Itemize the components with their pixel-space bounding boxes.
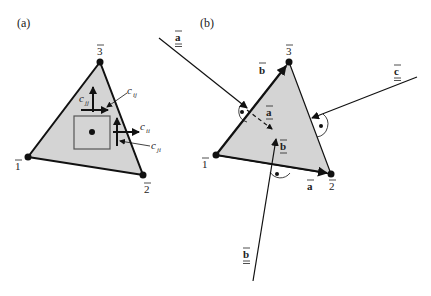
svg-text:a: a	[307, 180, 313, 192]
panel-a-label: (a)	[17, 16, 30, 30]
svg-text:b: b	[259, 64, 265, 76]
vertex-dot-3	[286, 59, 293, 66]
vertex-label-1: 1	[15, 160, 22, 172]
svg-text:1: 1	[15, 160, 21, 172]
vertex-dot-3	[97, 59, 104, 66]
svg-text:c: c	[79, 92, 84, 104]
outer-label-c: c	[394, 65, 401, 81]
svg-text:ji: ji	[156, 146, 161, 154]
label-c-ii: c ii	[140, 120, 150, 135]
edge-label-b: b	[259, 63, 266, 76]
right-angle-arc-b	[270, 172, 290, 178]
vertex-dot-1	[213, 152, 220, 159]
svg-text:ii: ii	[146, 127, 150, 135]
label-c-ji: c ji	[151, 139, 161, 154]
panel-b: (b) 3 1 2 b a	[159, 16, 417, 281]
vertex-label-2: 2	[144, 183, 151, 195]
svg-text:b: b	[280, 140, 286, 152]
svg-text:2: 2	[329, 180, 335, 192]
figure-canvas: (a) 3 1 2 c jj c ij	[0, 0, 431, 296]
svg-text:c: c	[394, 65, 399, 77]
label-c-ij: c ij	[127, 84, 137, 99]
vertex-dot-2	[140, 172, 147, 179]
svg-text:3: 3	[97, 45, 103, 57]
vertex-label-3: 3	[286, 45, 293, 57]
svg-text:c: c	[151, 139, 156, 151]
vertex-dot-2	[328, 171, 335, 178]
svg-text:jj: jj	[84, 99, 89, 107]
svg-text:ij: ij	[133, 91, 137, 99]
svg-text:c: c	[140, 120, 145, 132]
svg-text:2: 2	[144, 183, 150, 195]
panel-a: (a) 3 1 2 c jj c ij	[15, 16, 161, 195]
vertex-dot-1	[25, 154, 32, 161]
outer-vector-c-line	[312, 77, 417, 118]
svg-text:3: 3	[286, 45, 292, 57]
right-angle-dot-c	[319, 124, 323, 128]
vertex-label-2: 2	[329, 180, 336, 192]
vertex-label-1: 1	[202, 158, 209, 170]
svg-text:c: c	[127, 84, 132, 96]
edge-label-a: a	[307, 180, 314, 192]
inner-label-b: b	[280, 140, 287, 153]
svg-text:a: a	[175, 31, 181, 43]
right-angle-dot-b	[275, 172, 279, 176]
svg-text:b: b	[243, 248, 249, 260]
right-angle-dot-a	[240, 110, 244, 114]
svg-text:a: a	[266, 106, 272, 118]
triangle-a	[28, 62, 143, 175]
centroid-dot	[89, 129, 95, 135]
vertex-label-3: 3	[97, 45, 104, 57]
outer-label-a: a	[175, 31, 182, 47]
panel-b-label: (b)	[200, 16, 214, 30]
outer-label-b: b	[243, 248, 250, 264]
svg-text:1: 1	[202, 158, 208, 170]
outer-vector-a-line	[159, 38, 247, 108]
